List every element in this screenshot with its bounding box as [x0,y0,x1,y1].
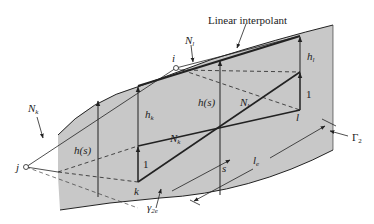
linear-interpolant-label: Linear interpolant [208,14,287,26]
gamma2-label: Γ2 [352,131,362,145]
h-s-mid-label: h(s) [198,96,215,109]
node-i-label: i [172,52,175,64]
linear-interpolant-pointer [237,24,246,48]
one-l-label: 1 [306,88,312,100]
shaded-domain-region [58,25,333,210]
nk-left-pointer [37,117,43,138]
shape-fn-frame-j [26,167,58,172]
nl-top-label: Nl [184,34,194,48]
one-k-label: 1 [143,158,149,170]
nk-left-label: Nk [27,102,39,116]
finite-element-interpolation-diagram: Linear interpolant Nl i Nk j hk h(s) h(s… [0,0,374,224]
gamma2e-label: γ2e [147,201,158,215]
node-l-label: l [296,111,299,123]
node-j-marker [24,165,29,170]
node-i-marker [174,66,179,71]
dimension-s-label: s [222,162,226,174]
h-s-left-label: h(s) [74,144,91,157]
node-j-label: j [14,161,19,173]
